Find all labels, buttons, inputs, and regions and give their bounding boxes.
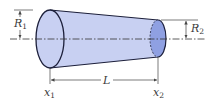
x1-label: x1 bbox=[44, 86, 55, 100]
length-label: L bbox=[102, 74, 110, 87]
r2-label: R2 bbox=[190, 22, 204, 36]
frustum-diagram: R1 R2 L x1 x2 bbox=[0, 0, 212, 103]
x2-label: x2 bbox=[153, 86, 164, 100]
